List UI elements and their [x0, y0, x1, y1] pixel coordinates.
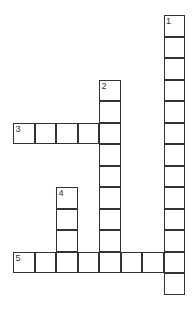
crossword-cell[interactable]: [164, 230, 186, 252]
crossword-cell[interactable]: [56, 123, 78, 145]
clue-number: 4: [59, 188, 64, 198]
crossword-cell[interactable]: [99, 252, 121, 274]
clue-number: 3: [16, 124, 21, 134]
clue-number: 5: [16, 253, 21, 263]
crossword-cell[interactable]: [35, 252, 57, 274]
crossword-cell[interactable]: [99, 123, 121, 145]
crossword-cell[interactable]: 3: [13, 123, 35, 145]
crossword-cell[interactable]: 1: [164, 15, 186, 37]
crossword-cell[interactable]: [164, 252, 186, 274]
crossword-cell[interactable]: [35, 123, 57, 145]
clue-number: 2: [102, 81, 107, 91]
crossword-cell[interactable]: [164, 187, 186, 209]
crossword-cell[interactable]: [99, 101, 121, 123]
crossword-cell[interactable]: [56, 230, 78, 252]
crossword-cell[interactable]: [164, 80, 186, 102]
crossword-cell[interactable]: [164, 166, 186, 188]
crossword-cell[interactable]: [99, 166, 121, 188]
crossword-cell[interactable]: [99, 230, 121, 252]
crossword-cell[interactable]: 4: [56, 187, 78, 209]
crossword-cell[interactable]: 2: [99, 80, 121, 102]
crossword-cell[interactable]: [164, 273, 186, 295]
crossword-cell[interactable]: [164, 37, 186, 59]
crossword-grid: 12345: [0, 0, 196, 315]
crossword-cell[interactable]: 5: [13, 252, 35, 274]
crossword-cell[interactable]: [56, 252, 78, 274]
crossword-cell[interactable]: [164, 58, 186, 80]
crossword-cell[interactable]: [164, 209, 186, 231]
crossword-cell[interactable]: [121, 252, 143, 274]
crossword-cell[interactable]: [78, 252, 100, 274]
crossword-cell[interactable]: [164, 123, 186, 145]
crossword-cell[interactable]: [78, 123, 100, 145]
crossword-cell[interactable]: [164, 101, 186, 123]
crossword-cell[interactable]: [99, 209, 121, 231]
crossword-cell[interactable]: [99, 144, 121, 166]
crossword-cell[interactable]: [56, 209, 78, 231]
clue-number: 1: [166, 16, 171, 26]
crossword-cell[interactable]: [164, 144, 186, 166]
crossword-cell[interactable]: [142, 252, 164, 274]
crossword-cell[interactable]: [99, 187, 121, 209]
